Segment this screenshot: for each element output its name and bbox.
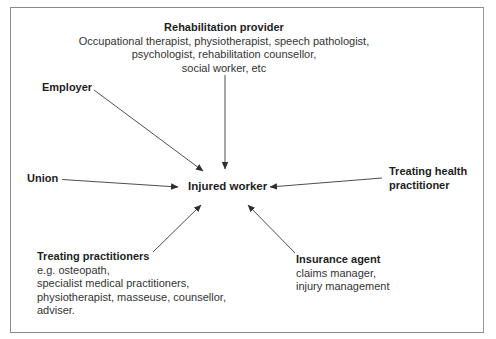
arrow-treating-to-worker [153,205,201,252]
arrow-employer-to-worker [94,90,203,171]
node-detail-line: adviser. [37,304,226,318]
node-title-line: practitioner [389,179,467,193]
node-title: Employer [42,81,92,95]
node-rehabilitation-provider: Rehabilitation provider Occupational the… [74,21,374,75]
node-treating-practitioners: Treating practitioners e.g. osteopath, s… [37,250,226,318]
arrow-health-to-worker [270,178,382,187]
node-detail-line: physiotherapist, masseuse, counsellor, [37,291,226,305]
arrow-union-to-worker [62,180,178,188]
node-injured-worker: Injured worker [188,180,267,194]
node-treating-health-practitioner: Treating health practitioner [389,165,467,192]
arrow-insurance-to-worker [248,205,295,253]
node-title: Insurance agent [296,253,390,267]
node-insurance-agent: Insurance agent claims manager, injury m… [296,253,390,294]
node-detail-line: injury management [296,280,390,294]
node-title-line: Treating health [389,165,467,179]
node-employer: Employer [42,81,92,95]
node-title: Rehabilitation provider [74,21,374,35]
node-title: Treating practitioners [37,250,226,264]
node-detail-line: specialist medical practitioners, [37,277,226,291]
node-detail-line: psychologist, rehabilitation counsellor, [74,48,374,62]
node-detail-line: claims manager, [296,267,390,281]
node-detail-line: e.g. osteopath, [37,264,226,278]
node-union: Union [27,172,58,186]
node-title: Union [27,172,58,186]
node-detail-line: Occupational therapist, physiotherapist,… [74,35,374,49]
center-node-title: Injured worker [188,180,267,194]
node-detail-line: social worker, etc [74,62,374,76]
